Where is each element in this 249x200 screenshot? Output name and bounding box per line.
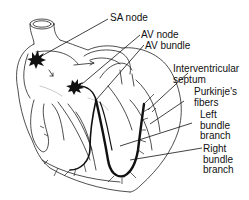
label-av-bundle: AV bundle bbox=[145, 41, 190, 52]
label-right-bundle-branch: Right bundle branch bbox=[203, 144, 234, 176]
label-left-bundle-branch: Left bundle branch bbox=[200, 110, 231, 142]
heart-conduction-diagram: SA node AV node AV bundle Interventricul… bbox=[0, 0, 249, 200]
label-sa-node: SA node bbox=[110, 13, 148, 24]
label-av-node: AV node bbox=[141, 30, 179, 41]
label-interventricular-septum: Interventricular septum bbox=[173, 64, 239, 85]
label-purkinje-fibers: Purkinje's fibers bbox=[194, 87, 237, 108]
